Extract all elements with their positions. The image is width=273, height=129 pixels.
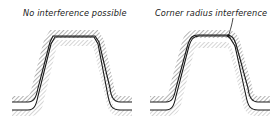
right-tooth-diagram	[150, 18, 270, 116]
diagram-canvas	[0, 0, 273, 129]
left-hatch-lower	[12, 40, 132, 116]
left-tooth-diagram	[12, 30, 132, 116]
right-hatch-band	[150, 30, 270, 102]
right-hatch-lower	[150, 42, 270, 116]
interference-marker	[227, 34, 230, 37]
